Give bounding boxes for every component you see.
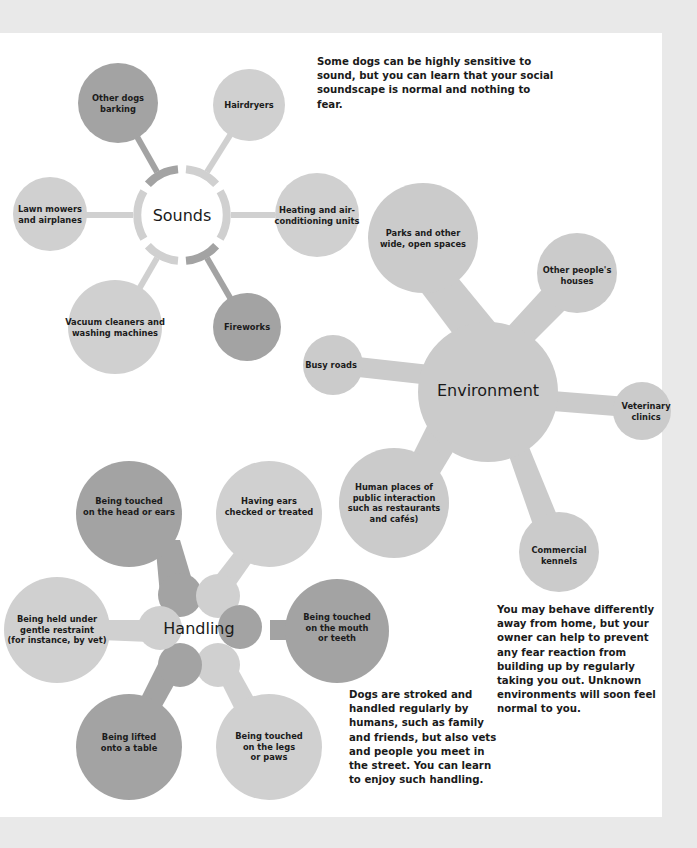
label-fireworks: Fireworks bbox=[187, 322, 307, 333]
label-lawn-mowers: Lawn mowers and airplanes bbox=[0, 204, 110, 225]
label-parks: Parks and other wide, open spaces bbox=[363, 228, 483, 249]
ring-segment-other-dogs bbox=[148, 169, 178, 184]
label-touched-mouth-teeth: Being touched on the mouth or teeth bbox=[277, 612, 397, 644]
label-busy-roads: Busy roads bbox=[271, 360, 391, 371]
label-hairdryers: Hairdryers bbox=[189, 100, 309, 111]
lobe-legs bbox=[196, 643, 240, 687]
label-lifted-onto-table: Being lifted onto a table bbox=[69, 732, 189, 753]
sounds-hub-label: Sounds bbox=[153, 206, 212, 225]
label-heating-units: Heating and air- conditioning units bbox=[257, 205, 377, 226]
ring-segment-fireworks bbox=[186, 246, 216, 261]
environment-caption: You may behave differently away from hom… bbox=[497, 603, 662, 717]
sounds-caption: Some dogs can be highly sensitive to sou… bbox=[317, 55, 557, 112]
lobe-lifted bbox=[158, 643, 202, 687]
handling-hub-label: Handling bbox=[163, 619, 234, 638]
handling-caption: Dogs are stroked and handled regularly b… bbox=[349, 688, 499, 787]
label-vacuum-cleaners: Vacuum cleaners and washing machines bbox=[55, 317, 175, 338]
label-touched-head-ears: Being touched on the head or ears bbox=[69, 496, 189, 517]
label-other-peoples-houses: Other people's houses bbox=[517, 265, 637, 286]
label-ears-checked: Having ears checked or treated bbox=[209, 496, 329, 517]
label-held-restraint: Being held under gentle restraint (for i… bbox=[0, 614, 117, 646]
label-other-dogs-barking: Other dogs barking bbox=[58, 93, 178, 114]
ring-segment-hairdryers bbox=[186, 169, 216, 184]
environment-hub-label: Environment bbox=[437, 381, 539, 400]
ring-segment-heating bbox=[220, 191, 227, 239]
label-veterinary-clinics: Veterinary clinics bbox=[586, 401, 697, 422]
ring-segment-vacuum bbox=[148, 246, 178, 261]
label-commercial-kennels: Commercial kennels bbox=[499, 545, 619, 566]
ring-segment-lawn bbox=[137, 191, 144, 239]
label-human-places: Human places of public interaction such … bbox=[334, 482, 454, 524]
label-touched-legs-paws: Being touched on the legs or paws bbox=[209, 731, 329, 763]
